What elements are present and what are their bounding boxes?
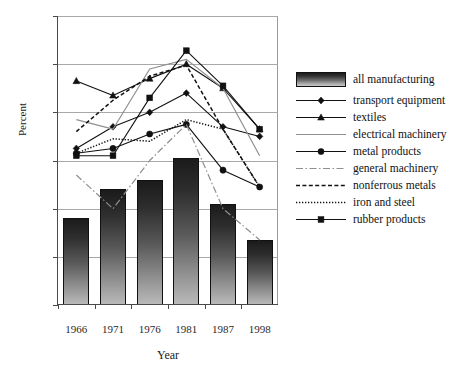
legend-label: transport equipment [349, 94, 445, 107]
legend-key-line [293, 194, 349, 211]
series-line-nonferrous-metals [76, 65, 259, 187]
legend-label: metal products [349, 145, 421, 158]
marker-square [147, 95, 153, 101]
marker-circle [220, 167, 226, 173]
marker-square [110, 153, 116, 159]
legend-label: nonferrous metals [349, 179, 436, 192]
legend-key-line [293, 109, 349, 126]
x-tick-label: 1987 [203, 324, 243, 335]
x-axis-title: Year [58, 348, 278, 363]
legend-key [293, 71, 349, 88]
marker-circle [147, 131, 153, 137]
legend-swatch-bar [296, 72, 346, 87]
legend-item: transport equipment [293, 92, 445, 109]
legend-label: electrical machinery [349, 128, 447, 141]
legend-key [293, 194, 349, 211]
legend-label: rubber products [349, 213, 426, 226]
marker-diamond [256, 133, 262, 140]
legend-key-line [293, 126, 349, 143]
legend-item: nonferrous metals [293, 177, 445, 194]
legend-key-line [293, 177, 349, 194]
series-lines-group [58, 16, 278, 305]
y-axis-title: Percent [16, 103, 28, 136]
legend-key [293, 160, 349, 177]
chart-figure: 95857565554535 196619711976198119871998 … [0, 0, 450, 365]
legend-key [293, 92, 349, 109]
marker-diamond [318, 97, 324, 104]
marker-triangle [73, 77, 80, 83]
marker-circle [110, 145, 116, 151]
x-tick-label: 1998 [240, 324, 280, 335]
legend-label: iron and steel [349, 196, 415, 209]
legend-key-line [293, 211, 349, 228]
legend-key-line [293, 160, 349, 177]
legend-key [293, 211, 349, 228]
plot-area: 95857565554535 196619711976198119871998 … [58, 16, 278, 305]
x-tick-label: 1971 [93, 324, 133, 335]
legend-item: rubber products [293, 211, 445, 228]
legend-item: all manufacturing [293, 66, 445, 92]
legend-label: general machinery [349, 162, 438, 175]
x-tick-mark [205, 305, 206, 309]
legend-item: metal products [293, 143, 445, 160]
legend: all manufacturingtransport equipmenttext… [293, 66, 445, 228]
x-tick-mark [131, 305, 132, 309]
legend-item: iron and steel [293, 194, 445, 211]
marker-square [73, 153, 79, 159]
legend-key-line [293, 92, 349, 109]
legend-key [293, 126, 349, 143]
legend-key-line [293, 143, 349, 160]
legend-key [293, 177, 349, 194]
legend-label: all manufacturing [349, 73, 434, 86]
x-tick-mark [58, 305, 59, 309]
legend-key [293, 109, 349, 126]
series-line-general-machinery [76, 124, 259, 240]
x-tick-mark [168, 305, 169, 309]
marker-square [257, 126, 263, 132]
marker-square [220, 83, 226, 89]
marker-square [318, 217, 324, 223]
legend-key [293, 143, 349, 160]
marker-square [183, 48, 189, 54]
marker-circle [318, 148, 324, 154]
x-tick-label: 1976 [130, 324, 170, 335]
x-tick-mark [95, 305, 96, 309]
series-line-transport-equipment [76, 93, 259, 148]
y-axis-line [57, 16, 58, 305]
legend-label: textiles [349, 111, 386, 124]
x-tick-label: 1966 [56, 324, 96, 335]
legend-item: textiles [293, 109, 445, 126]
marker-diamond [146, 109, 152, 116]
legend-item: general machinery [293, 160, 445, 177]
x-tick-label: 1981 [166, 324, 206, 335]
x-tick-mark [241, 305, 242, 309]
legend-item: electrical machinery [293, 126, 445, 143]
